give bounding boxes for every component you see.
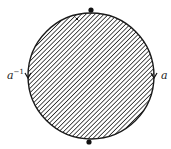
edge-label-right-base: a <box>161 69 168 82</box>
hatched-disk <box>28 13 154 139</box>
edge-label-left-exponent: −1 <box>14 68 24 76</box>
edge-label-right: a <box>161 70 168 81</box>
bottom-vertex-dot <box>86 139 91 144</box>
top-vertex-dot <box>88 7 93 12</box>
edge-label-left: a−1 <box>7 69 24 81</box>
disk-diagram <box>0 0 171 149</box>
